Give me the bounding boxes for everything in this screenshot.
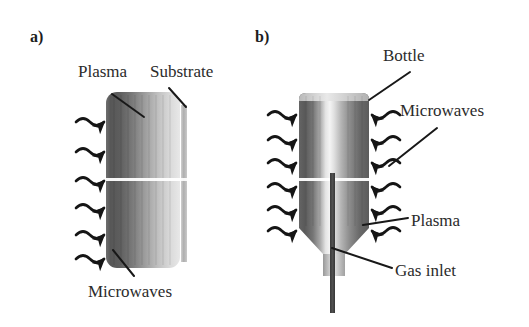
microwave-wave: [76, 205, 104, 212]
plasma-cylinder-a: [106, 92, 180, 268]
label-plasma-a: Plasma: [78, 62, 127, 81]
gas-inlet-tube-b: [330, 173, 335, 313]
bottle-rim: [299, 93, 369, 101]
leader-microwaves-b: [389, 128, 437, 166]
microwave-wave: [76, 178, 104, 185]
label-microwaves-b: Microwaves: [400, 101, 484, 120]
gas-inlet-rod: [330, 173, 335, 313]
leader-bottle-b: [369, 72, 410, 100]
label-substrate-a: Substrate: [150, 62, 213, 81]
microwave-wave: [372, 207, 400, 214]
microwave-wave: [268, 160, 296, 167]
label-bottle-b: Bottle: [383, 46, 425, 65]
substrate-bar: [181, 105, 187, 262]
leader-plasma-b: [363, 218, 408, 225]
cylinder-midline: [106, 178, 180, 181]
substrate-midline: [181, 178, 187, 181]
microwave-waves-a: [76, 119, 104, 263]
label-gas-inlet-b: Gas inlet: [395, 261, 456, 280]
microwave-wave: [268, 207, 296, 214]
microwave-wave: [372, 112, 400, 119]
microwave-wave: [372, 137, 400, 144]
microwave-wave: [268, 228, 296, 235]
label-microwaves-a: Microwaves: [88, 282, 172, 301]
figure-canvas: a) b) Plasma Substrate Microwaves Bottle…: [0, 0, 529, 327]
microwave-wave: [76, 256, 104, 263]
microwave-wave: [372, 184, 400, 191]
microwave-wave: [268, 137, 296, 144]
microwave-wave: [268, 184, 296, 191]
microwave-wave: [76, 119, 104, 126]
panel-tag-a: a): [30, 28, 43, 46]
microwave-wave: [268, 112, 296, 119]
microwave-waves-b-left: [268, 112, 296, 235]
microwave-wave: [372, 228, 400, 235]
label-plasma-b: Plasma: [411, 211, 460, 230]
panel-a-artwork: [76, 88, 187, 276]
microwave-waves-b-right: [372, 112, 400, 235]
microwave-wave: [76, 232, 104, 239]
panel-tag-b: b): [255, 28, 269, 46]
substrate-plate-a: [181, 105, 187, 262]
microwave-wave: [76, 149, 104, 156]
